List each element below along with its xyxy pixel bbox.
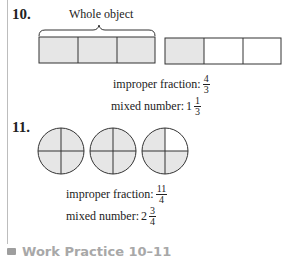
mixed-fraction: 1 3 [194, 96, 201, 117]
improper-label: improper fraction: [66, 187, 154, 202]
circle-1 [38, 128, 84, 174]
improper-fraction: 11 4 [156, 184, 168, 205]
brace-icon [39, 25, 155, 36]
problem-11-mixed: mixed number: 2 3 4 [66, 206, 156, 227]
improper-label: improper fraction: [113, 77, 201, 92]
mixed-label: mixed number: [111, 99, 184, 114]
bar-partial-object [165, 38, 281, 64]
work-practice-label: Work Practice 10–11 [22, 244, 171, 259]
problem-10-mixed: mixed number: 1 1 3 [111, 96, 201, 117]
problem-10-improper: improper fraction: 4 3 [113, 74, 210, 95]
problem-11-improper: improper fraction: 11 4 [66, 184, 167, 205]
circle-3 [142, 128, 188, 174]
mixed-label: mixed number: [66, 209, 139, 224]
square-bullet-icon [7, 248, 16, 255]
bar-whole-object [39, 37, 155, 63]
work-practice-footer: Work Practice 10–11 [7, 244, 171, 259]
mixed-fraction: 3 4 [149, 206, 156, 227]
improper-fraction: 4 3 [203, 74, 210, 95]
problem-11-number: 11. [12, 119, 30, 136]
circle-2 [90, 128, 136, 174]
